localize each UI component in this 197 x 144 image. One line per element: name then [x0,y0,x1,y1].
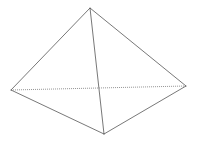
vertex-apex [89,7,90,8]
vertex-front [103,133,104,134]
edge-apex-right [90,8,186,86]
edge-apex-front [90,8,104,134]
edge-apex-left [11,8,90,90]
edge-left-front [11,90,104,134]
edge-front-right [104,86,186,134]
pyramid-diagram [0,0,197,144]
vertex-right [185,85,186,86]
vertex-left [10,89,11,90]
